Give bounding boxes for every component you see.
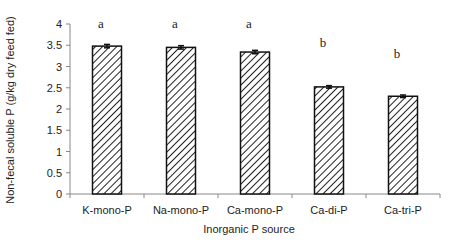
- bar: [315, 87, 344, 194]
- y-tick-label: 0.5: [47, 167, 62, 179]
- significance-letter: a: [98, 16, 104, 31]
- y-tick-label: 2: [56, 103, 62, 115]
- bar: [241, 52, 270, 194]
- bar-chart: 00.511.522.533.54 K-mono-PNa-mono-PCa-mo…: [0, 0, 452, 250]
- bar: [389, 96, 418, 194]
- category-label: Ca-di-P: [310, 204, 347, 216]
- category-label: Na-mono-P: [153, 204, 209, 216]
- significance-letter: a: [246, 16, 252, 31]
- significance-letter: b: [394, 46, 401, 61]
- bar: [167, 47, 196, 194]
- bar: [93, 46, 122, 194]
- y-tick-label: 0: [56, 188, 62, 200]
- significance-letter: b: [320, 35, 327, 50]
- category-label: Ca-tri-P: [384, 204, 422, 216]
- y-tick-label: 1.5: [47, 124, 62, 136]
- x-axis-title: Inorganic P source: [203, 223, 295, 235]
- category-label: K-mono-P: [82, 204, 132, 216]
- y-axis: 00.511.522.533.54: [47, 18, 70, 200]
- y-tick-label: 4: [56, 18, 62, 30]
- y-tick-label: 2.5: [47, 82, 62, 94]
- category-label: Ca-mono-P: [227, 204, 283, 216]
- y-tick-label: 3: [56, 61, 62, 73]
- y-tick-label: 1: [56, 146, 62, 158]
- significance-letter: a: [172, 16, 178, 31]
- bars: [93, 44, 418, 194]
- y-tick-label: 3.5: [47, 39, 62, 51]
- y-axis-title: Non-fecal soluble P (g/kg dry feed fed): [4, 16, 16, 204]
- category-labels: K-mono-PNa-mono-PCa-mono-PCa-di-PCa-tri-…: [82, 204, 422, 216]
